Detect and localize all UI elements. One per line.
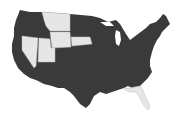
us-map-svg: [0, 0, 182, 116]
state-wyoming: [50, 32, 71, 48]
us-map: [0, 0, 182, 116]
state-florida: [124, 86, 150, 110]
